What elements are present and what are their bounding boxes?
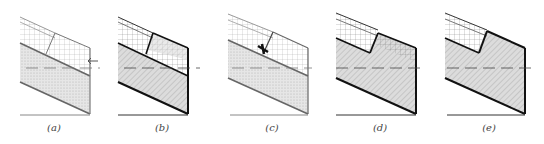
arrow-icon (88, 58, 98, 64)
panel-a: (a) (0, 0, 108, 144)
panel-label-b: (b) (108, 122, 216, 133)
panel-label-d: (d) (326, 122, 434, 133)
panel-label-e: (e) (435, 122, 543, 133)
panel-label-c: (c) (218, 122, 326, 133)
panel-e: (e) (435, 0, 543, 144)
panel-c: (c) (218, 0, 326, 144)
slope-section-figure: (a) (b) (0, 0, 544, 144)
panel-b: (b) (108, 0, 216, 144)
panel-label-a: (a) (0, 122, 108, 133)
panel-d: (d) (326, 0, 434, 144)
